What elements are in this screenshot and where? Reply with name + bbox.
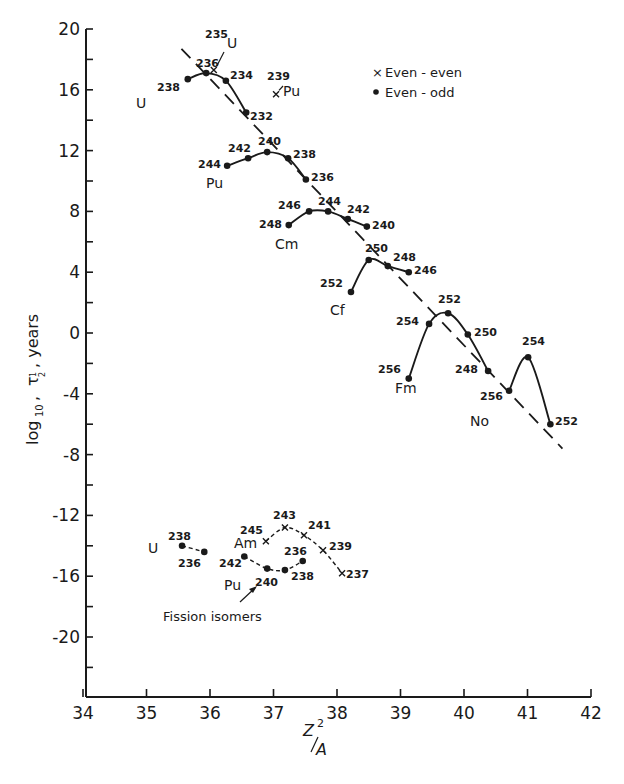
data-point-dot	[485, 368, 492, 375]
series-line	[244, 556, 302, 570]
y-tick-label: 0	[69, 323, 80, 343]
element-label: Cm	[275, 236, 298, 252]
mass-number-label: 237	[346, 568, 369, 581]
mass-number-label: 240	[258, 135, 281, 148]
data-series	[179, 52, 554, 576]
data-point-dot	[547, 421, 554, 428]
y-tick-label: -4	[63, 384, 80, 404]
data-point-dot	[201, 549, 208, 556]
mass-number-label: 243	[273, 509, 296, 522]
mass-number-label: 244	[198, 158, 221, 171]
legend-dot-marker	[373, 89, 379, 95]
mass-number-label: 246	[278, 199, 301, 212]
fission-isomers-label: Fission isomers	[163, 609, 262, 624]
y-tick-label: -16	[52, 566, 80, 586]
y-title-years: , years	[23, 314, 42, 368]
x-tick-label: 42	[580, 703, 602, 723]
mass-number-label: 234	[230, 69, 253, 82]
mass-number-label: 248	[393, 251, 416, 264]
data-point-dot	[285, 222, 292, 229]
data-point-dot	[303, 176, 310, 183]
data-point-dot	[365, 257, 372, 264]
mass-number-label: 254	[522, 335, 545, 348]
data-point-dot	[445, 310, 452, 317]
element-label: Pu	[283, 83, 300, 99]
data-point-dot	[299, 558, 306, 565]
x-tick-label: 34	[72, 703, 94, 723]
element-label: U	[227, 35, 237, 51]
mass-number-label: 235	[205, 28, 228, 41]
data-point-dot	[184, 76, 191, 83]
data-point-dot	[348, 289, 355, 296]
data-point-dot	[241, 553, 248, 560]
series-239pu	[273, 91, 279, 97]
x-axis-title: Z 2 A	[302, 717, 327, 759]
data-point-dot	[179, 543, 186, 550]
legend-x-marker: ×	[372, 65, 383, 80]
y-tick-label: 20	[58, 19, 80, 39]
legend-label-even-even: Even - even	[385, 65, 462, 80]
axes: 201612840-4-8-12-16-20343536373839404142	[52, 19, 602, 723]
fission-isomers-annotation: Fission isomers	[163, 586, 262, 624]
y-tick-label: 16	[58, 80, 80, 100]
mass-number-label: 248	[259, 218, 282, 231]
mass-number-label: 236	[311, 171, 334, 184]
mass-number-label: 238	[157, 81, 180, 94]
data-point-x	[301, 532, 307, 538]
data-point-dot	[364, 223, 371, 230]
y-title-comma: ,	[23, 396, 42, 401]
data-point-dot	[306, 208, 313, 215]
x-title-a: A	[315, 740, 327, 759]
series-no	[506, 354, 554, 427]
y-title-half-den: 2	[38, 372, 47, 377]
mass-number-label: 244	[318, 195, 341, 208]
element-label: U	[148, 540, 158, 556]
mass-number-label: 252	[438, 293, 461, 306]
mass-number-label: 248	[455, 363, 478, 376]
x-tick-label: 35	[136, 703, 158, 723]
mass-number-label: 242	[228, 142, 251, 155]
data-point-dot	[285, 155, 292, 162]
mass-number-label: 252	[320, 277, 343, 290]
data-point-x	[320, 547, 326, 553]
series-line	[182, 546, 204, 552]
data-point-x	[263, 538, 269, 544]
y-title-half-num: 1	[29, 372, 38, 377]
x-title-sup: 2	[317, 717, 324, 730]
legend: × Even - even Even - odd	[372, 65, 462, 100]
mass-number-label: 240	[255, 576, 278, 589]
mass-number-label: 254	[396, 315, 419, 328]
data-point-dot	[223, 77, 230, 84]
y-axis-title: log 10 , τ 1 2 , years	[23, 314, 47, 445]
mass-number-label: 250	[474, 326, 497, 339]
mass-number-label: 232	[250, 110, 273, 123]
element-label: Pu	[206, 175, 223, 191]
element-label: Fm	[395, 380, 417, 396]
data-point-dot	[465, 331, 472, 338]
y-tick-label: 8	[69, 201, 80, 221]
data-point-dot	[325, 208, 332, 215]
data-point-dot	[203, 70, 210, 77]
chart-canvas: 201612840-4-8-12-16-20343536373839404142…	[0, 0, 624, 784]
mass-number-label: 236	[284, 545, 307, 558]
mass-number-label: 236	[178, 557, 201, 570]
x-tick-label: 40	[453, 703, 475, 723]
data-point-dot	[245, 155, 252, 162]
element-label: Pu	[224, 577, 241, 593]
point-labels: 2382362352342322392442422402382362482462…	[157, 28, 578, 589]
mass-number-label: 241	[308, 519, 331, 532]
y-tick-label: -20	[52, 627, 80, 647]
y-tick-label: 4	[69, 262, 80, 282]
element-label: Cf	[330, 302, 346, 318]
data-point-dot	[525, 354, 532, 361]
x-tick-label: 36	[199, 703, 221, 723]
mass-number-label: 242	[219, 557, 242, 570]
data-point-dot	[282, 567, 289, 574]
mass-number-label: 246	[414, 264, 437, 277]
legend-label-even-odd: Even - odd	[385, 85, 455, 100]
element-label: No	[470, 413, 489, 429]
data-point-x	[273, 91, 279, 97]
data-point-dot	[264, 149, 271, 156]
data-point-dot	[506, 387, 513, 394]
series-u-fission-isomers-	[179, 543, 208, 556]
